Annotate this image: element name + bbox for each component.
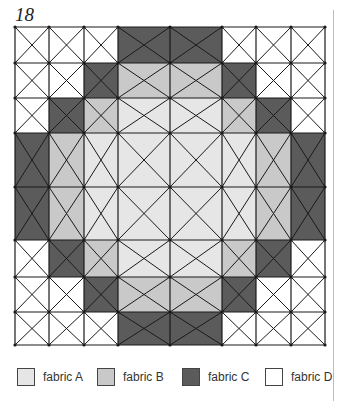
quilt-cell — [256, 312, 291, 345]
quilt-cell — [49, 277, 84, 312]
quilt-block-diagram — [0, 0, 344, 360]
quilt-cell — [291, 312, 325, 345]
quilt-cell — [118, 63, 170, 98]
quilt-cell — [222, 240, 256, 277]
quilt-cell — [15, 133, 49, 187]
quilt-cell — [256, 27, 291, 63]
quilt-cell — [118, 312, 170, 345]
quilt-cell — [49, 27, 84, 63]
legend-item-fabric-b: fabric B — [97, 368, 164, 386]
legend-label: fabric A — [43, 370, 83, 384]
swatch-fabric-b — [97, 368, 115, 386]
quilt-cell — [256, 187, 291, 240]
quilt-cell — [84, 27, 118, 63]
quilt-cell — [256, 277, 291, 312]
legend-label: fabric B — [123, 370, 164, 384]
quilt-cell — [118, 27, 170, 63]
quilt-cell — [84, 240, 118, 277]
quilt-cell — [256, 63, 291, 98]
quilt-cell — [256, 133, 291, 187]
quilt-cell — [15, 277, 49, 312]
quilt-cell — [118, 98, 170, 133]
quilt-cell — [170, 133, 222, 187]
quilt-cell — [84, 312, 118, 345]
quilt-cell — [49, 187, 84, 240]
swatch-fabric-a — [17, 368, 35, 386]
quilt-cell — [170, 187, 222, 240]
quilt-cell — [170, 98, 222, 133]
quilt-cell — [170, 312, 222, 345]
quilt-cell — [170, 63, 222, 98]
quilt-cell — [15, 63, 49, 98]
swatch-fabric-c — [182, 368, 200, 386]
quilt-cell — [291, 27, 325, 63]
legend-label: fabric D — [291, 370, 332, 384]
quilt-cell — [291, 133, 325, 187]
quilt-cell — [170, 240, 222, 277]
quilt-cell — [49, 63, 84, 98]
quilt-cell — [118, 277, 170, 312]
quilt-cell — [170, 277, 222, 312]
quilt-cell — [170, 27, 222, 63]
legend-item-fabric-a: fabric A — [17, 368, 83, 386]
quilt-cell — [291, 277, 325, 312]
quilt-cell — [15, 312, 49, 345]
quilt-cell — [222, 27, 256, 63]
quilt-cell — [291, 240, 325, 277]
quilt-cell — [84, 277, 118, 312]
quilt-cell — [222, 133, 256, 187]
quilt-cell — [49, 240, 84, 277]
quilt-cell — [222, 312, 256, 345]
quilt-cell — [15, 187, 49, 240]
quilt-cell — [222, 63, 256, 98]
quilt-cell — [222, 98, 256, 133]
quilt-cell — [49, 98, 84, 133]
quilt-cell — [118, 187, 170, 240]
quilt-cell — [118, 240, 170, 277]
quilt-cell — [49, 133, 84, 187]
fabric-legend: fabric A fabric B fabric C fabric D — [0, 368, 344, 388]
quilt-cell — [49, 312, 84, 345]
quilt-cell — [84, 187, 118, 240]
quilt-cell — [118, 133, 170, 187]
quilt-cell — [15, 27, 49, 63]
quilt-cell — [84, 63, 118, 98]
quilt-cell — [15, 98, 49, 133]
legend-item-fabric-d: fabric D — [265, 368, 332, 386]
quilt-cell — [256, 240, 291, 277]
quilt-cell — [291, 187, 325, 240]
quilt-cell — [291, 98, 325, 133]
quilt-cell — [84, 98, 118, 133]
quilt-cell — [256, 98, 291, 133]
quilt-cell — [222, 187, 256, 240]
legend-label: fabric C — [208, 370, 249, 384]
quilt-cell — [15, 240, 49, 277]
quilt-cell — [291, 63, 325, 98]
quilt-cell — [222, 277, 256, 312]
quilt-cell — [84, 133, 118, 187]
legend-item-fabric-c: fabric C — [182, 368, 249, 386]
swatch-fabric-d — [265, 368, 283, 386]
